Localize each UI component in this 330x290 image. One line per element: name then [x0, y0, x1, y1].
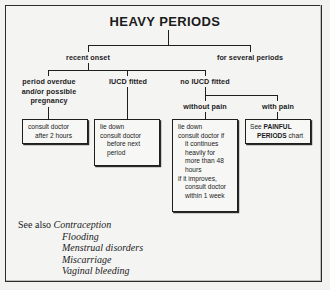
see-also-item-menstrual-disorders[interactable]: Menstrual disorders	[62, 242, 143, 253]
advice-box-without-pain-text: lie down consult doctor if it continues …	[178, 123, 234, 200]
advice-line: more than 48	[178, 157, 234, 166]
connector-period-overdue-drop	[48, 70, 49, 76]
advice-line: it continues	[178, 140, 234, 149]
advice-box-with-pain-text: See PAINFUL PERIODS chart	[250, 123, 307, 140]
advice-box-period-overdue-text: consult doctor after 2 hours	[28, 123, 84, 140]
chart-reference-line-2: PERIODS chart	[250, 132, 307, 141]
see-also-item-vaginal-bleeding[interactable]: Vaginal bleeding	[62, 265, 130, 276]
advice-line: if it improves,	[178, 175, 234, 184]
advice-box-without-pain[interactable]: lie down consult doctor if it continues …	[172, 119, 238, 212]
see-also-row: Flooding	[18, 231, 288, 243]
connector-no-iucd-drop	[205, 70, 206, 76]
connector-with-pain-drop	[277, 95, 278, 101]
connector-level3-bar	[205, 95, 277, 96]
advice-line: hours	[178, 166, 234, 175]
advice-line: consult doctor	[178, 183, 234, 192]
branch-label-without-pain: without pain	[173, 102, 237, 112]
chart-reference-line-1: See PAINFUL	[250, 123, 307, 132]
advice-line: lie down	[178, 123, 234, 132]
see-also-item-miscarriage[interactable]: Miscarriage	[62, 254, 111, 265]
see-also-item-flooding[interactable]: Flooding	[62, 231, 99, 242]
connector-no-iucd-stem	[205, 87, 206, 95]
branch-label-with-pain: with pain	[250, 102, 306, 112]
reference-chart-name: PAINFUL	[264, 123, 292, 130]
period-overdue-line-1: period overdue	[22, 77, 75, 86]
branch-label-iucd-fitted: IUCD fitted	[95, 77, 161, 87]
see-also-item-contraception[interactable]: Contraception	[54, 219, 112, 230]
connector-without-pain-stem	[205, 112, 206, 119]
advice-line: heavily for	[178, 149, 234, 158]
advice-line: before next	[100, 140, 156, 149]
reference-suffix: chart	[287, 132, 304, 139]
connector-period-overdue-stem	[48, 107, 49, 119]
branch-label-recent-onset: recent onset	[48, 53, 128, 63]
see-also-block: See also Contraception Flooding Menstrua…	[18, 219, 288, 277]
see-also-row: Miscarriage	[18, 254, 288, 266]
see-also-row: Vaginal bleeding	[18, 265, 288, 277]
advice-box-iucd-fitted[interactable]: lie down consult doctor before next peri…	[94, 119, 160, 166]
connector-without-pain-drop	[205, 95, 206, 101]
advice-line: consult doctor if	[178, 132, 234, 141]
connector-iucd-fitted-stem	[127, 87, 128, 119]
connector-title-stem	[168, 30, 169, 45]
period-overdue-line-2: and/or possible	[22, 87, 77, 96]
advice-line: period	[100, 149, 156, 158]
see-also-row: Menstrual disorders	[18, 242, 288, 254]
reference-prefix: See	[250, 123, 264, 130]
advice-line: lie down	[100, 123, 156, 132]
branch-label-for-several-periods: for several periods	[205, 53, 295, 63]
connector-iucd-fitted-drop	[127, 70, 128, 76]
advice-box-iucd-fitted-text: lie down consult doctor before next peri…	[100, 123, 156, 157]
heavy-periods-flowchart: HEAVY PERIODS recent onset for several p…	[0, 0, 330, 290]
connector-with-pain-stem	[277, 112, 278, 119]
branch-label-no-iucd-fitted: no IUCD fitted	[172, 77, 238, 87]
advice-box-with-pain[interactable]: See PAINFUL PERIODS chart	[245, 119, 311, 144]
advice-line: after 2 hours	[28, 132, 84, 141]
branch-label-period-overdue: period overdue and/or possible pregnancy	[8, 77, 90, 106]
reference-chart-name-2: PERIODS	[257, 132, 287, 139]
see-also-row: See also Contraception	[18, 219, 288, 231]
period-overdue-line-3: pregnancy	[30, 96, 67, 105]
chart-title: HEAVY PERIODS	[0, 14, 330, 29]
connector-recent-onset-stem	[88, 63, 89, 70]
advice-box-period-overdue[interactable]: consult doctor after 2 hours	[22, 119, 88, 144]
see-also-label: See also	[18, 219, 51, 230]
connector-several-periods-drop	[250, 45, 251, 52]
advice-line: within 1 week	[178, 192, 234, 201]
advice-line: consult doctor	[100, 132, 156, 141]
connector-level1-bar	[88, 45, 251, 46]
connector-recent-onset-drop	[88, 45, 89, 52]
advice-line: consult doctor	[28, 123, 84, 132]
